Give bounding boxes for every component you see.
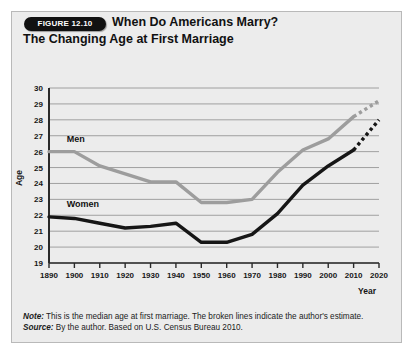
y-tick-label: 29 xyxy=(34,100,43,109)
y-tick-label: 26 xyxy=(34,148,43,157)
y-axis-title: Age xyxy=(14,170,24,186)
y-tick-label: 20 xyxy=(34,243,43,252)
y-tick-label: 25 xyxy=(34,164,43,173)
x-tick-label: 1900 xyxy=(65,271,83,280)
x-axis-tick-labels: 1890190019101920193019401950196019701980… xyxy=(40,271,388,280)
y-tick-label: 27 xyxy=(34,132,43,141)
y-tick-label: 21 xyxy=(34,227,43,236)
y-tick-label: 23 xyxy=(34,195,43,204)
chart-plot-area: 192021222324252627282930 189019001910192… xyxy=(12,56,403,301)
figure-number-badge: FIGURE 12.10 xyxy=(24,17,106,31)
y-tick-label: 19 xyxy=(34,259,43,268)
y-tick-label: 22 xyxy=(34,211,43,220)
series-inline-labels: MenWomen xyxy=(67,134,99,209)
y-tick-label: 30 xyxy=(34,84,43,93)
source-label: Source: xyxy=(23,323,53,332)
x-tick-label: 2000 xyxy=(319,271,337,280)
figure-number-label: FIGURE 12.10 xyxy=(24,17,106,31)
x-tick-label: 1920 xyxy=(116,271,134,280)
y-axis-tick-labels: 192021222324252627282930 xyxy=(34,84,43,268)
source-line: Source: By the author. Based on U.S. Cen… xyxy=(23,322,395,333)
source-body: By the author. Based on U.S. Census Bure… xyxy=(53,323,242,332)
y-tick-label: 24 xyxy=(34,179,43,188)
data-series-group xyxy=(49,101,379,243)
figure-notes: Note: This is the median age at first ma… xyxy=(23,311,395,333)
x-tick-label: 2020 xyxy=(370,271,388,280)
x-tick-label: 1980 xyxy=(269,271,287,280)
x-tick-label: 1910 xyxy=(91,271,109,280)
x-tick-label: 1940 xyxy=(167,271,185,280)
gridlines-group xyxy=(49,88,379,263)
x-tick-label: 1930 xyxy=(142,271,160,280)
figure-header: FIGURE 12.10 When Do Americans Marry? Th… xyxy=(12,12,401,56)
x-tick-label: 1890 xyxy=(40,271,58,280)
note-label: Note: xyxy=(23,312,44,321)
series-inline-label: Women xyxy=(67,199,99,209)
figure-title-line-1: When Do Americans Marry? xyxy=(112,15,278,29)
x-tick-label: 1950 xyxy=(192,271,210,280)
series-line-men xyxy=(49,117,354,203)
note-line: Note: This is the median age at first ma… xyxy=(23,311,395,322)
series-projection-women xyxy=(354,120,379,150)
x-tick-label: 1970 xyxy=(243,271,261,280)
line-chart-svg: 192021222324252627282930 189019001910192… xyxy=(12,56,403,301)
note-body: This is the median age at first marriage… xyxy=(44,312,363,321)
x-axis-title: Year xyxy=(358,286,377,296)
series-projection-men xyxy=(354,101,379,117)
x-tick-label: 1990 xyxy=(294,271,312,280)
figure-title-line-2: The Changing Age at First Marriage xyxy=(23,32,234,46)
figure-container: FIGURE 12.10 When Do Americans Marry? Th… xyxy=(11,11,402,343)
x-tick-label: 1960 xyxy=(218,271,236,280)
y-tick-label: 28 xyxy=(34,116,43,125)
x-tick-label: 2010 xyxy=(345,271,363,280)
series-inline-label: Men xyxy=(67,134,85,144)
